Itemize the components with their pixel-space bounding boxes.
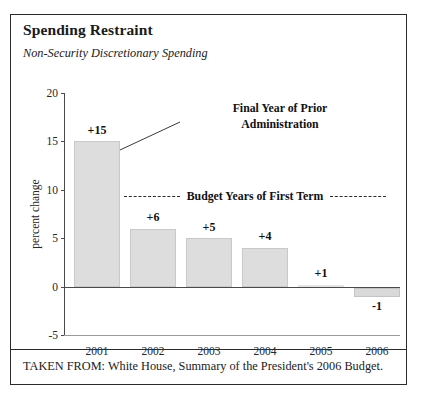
y-tick-label: 0 [52, 281, 58, 293]
bar-2002 [130, 229, 176, 287]
y-tick-mark [61, 141, 64, 142]
figure-subtitle: Non-Security Discretionary Spending [23, 46, 208, 61]
figure-panel: Spending Restraint Non-Security Discreti… [10, 14, 407, 385]
bar-value-2002: +6 [130, 210, 176, 225]
bar-2003 [186, 238, 232, 286]
bar-value-2005: +1 [298, 266, 344, 281]
x-tick-label-2006: 2006 [354, 345, 400, 357]
x-tick-label-2002: 2002 [130, 345, 176, 357]
y-tick-label: 10 [47, 184, 59, 196]
y-tick-mark [61, 238, 64, 239]
y-tick-label: -5 [48, 329, 58, 341]
dashed-line-left [124, 196, 180, 197]
bar-2006 [354, 288, 400, 298]
zero-axis-line [64, 287, 400, 288]
x-axis-line [64, 335, 400, 336]
x-tick-label-2001: 2001 [74, 345, 120, 357]
annotation-budget-years: Budget Years of First Term [110, 188, 400, 204]
source-caption: TAKEN FROM: White House, Summary of the … [23, 359, 383, 374]
x-tick-label-2004: 2004 [242, 345, 288, 357]
y-tick-label: 15 [47, 135, 59, 147]
bar-2004 [242, 248, 288, 287]
y-tick-label: 5 [52, 232, 58, 244]
x-tick-label-2005: 2005 [298, 345, 344, 357]
annotation-budget-years-label: Budget Years of First Term [187, 189, 324, 204]
annotation-leader-line [119, 121, 181, 151]
plot-area: 20 15 10 5 0 -5 [64, 93, 400, 335]
y-axis-title: percent change [29, 93, 43, 335]
bar-value-2003: +5 [186, 220, 232, 235]
y-axis-line [64, 93, 65, 335]
x-tick-label-2003: 2003 [186, 345, 232, 357]
y-tick-mark [61, 93, 64, 94]
annotation-prior-administration: Final Year of Prior Administration [214, 101, 346, 133]
bar-value-2004: +4 [242, 229, 288, 244]
bar-2001 [74, 141, 120, 286]
bar-value-2006: -1 [354, 299, 400, 314]
y-tick-mark [61, 190, 64, 191]
bar-value-2001: +15 [74, 123, 120, 138]
page-title: Spending Restraint [23, 21, 153, 39]
dashed-line-right [330, 196, 386, 197]
y-tick-label: 20 [47, 87, 59, 99]
footer-divider [11, 349, 406, 350]
